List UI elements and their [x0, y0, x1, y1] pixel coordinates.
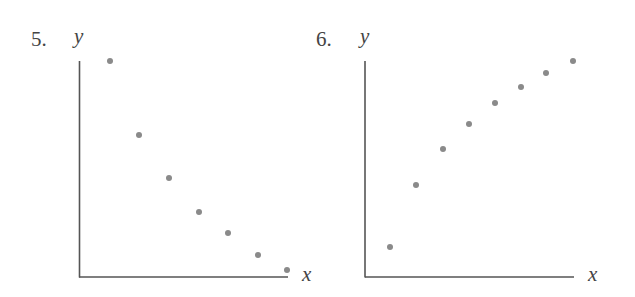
data-point: [413, 182, 419, 188]
data-point: [387, 244, 393, 250]
data-point: [440, 146, 446, 152]
figure-6: 6. y x: [0, 0, 635, 297]
data-point: [543, 70, 549, 76]
data-point: [570, 58, 576, 64]
data-point: [492, 100, 498, 106]
scatter-plot-6: [0, 0, 635, 297]
data-points: [387, 58, 576, 250]
data-point: [466, 121, 472, 127]
data-point: [518, 84, 524, 90]
